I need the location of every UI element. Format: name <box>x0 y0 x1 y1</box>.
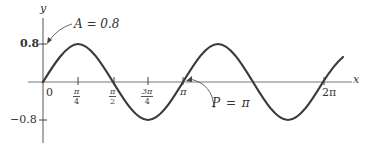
x-label-2pi: 2π <box>322 86 336 99</box>
y-label-0-8: 0.8 <box>20 37 39 50</box>
y-axis-label: y <box>40 2 46 15</box>
x-label-pi-4-num: π <box>73 87 80 97</box>
x-label-3pi-4-den: 4 <box>141 97 153 106</box>
x-label-3pi-4-num: 3π <box>141 87 153 97</box>
period-annotation: P = π <box>212 96 250 110</box>
x-label-pi-2-num: π <box>109 87 116 97</box>
x-axis-label: x <box>353 73 359 86</box>
x-label-3pi-4: 3π 4 <box>141 87 153 106</box>
x-label-pi-4-den: 4 <box>73 97 80 106</box>
x-label-pi-2-den: 2 <box>109 97 116 106</box>
x-label-pi-2: π 2 <box>109 87 116 106</box>
origin-label: 0 <box>46 86 53 99</box>
x-label-pi: π <box>180 86 187 97</box>
x-label-pi-4: π 4 <box>73 87 80 106</box>
amplitude-arrow <box>49 24 72 41</box>
y-label-neg-0-8: −0.8 <box>10 113 37 126</box>
period-arrow <box>190 79 214 108</box>
amplitude-annotation: A = 0.8 <box>74 17 119 31</box>
sine-wave-chart <box>0 0 370 153</box>
